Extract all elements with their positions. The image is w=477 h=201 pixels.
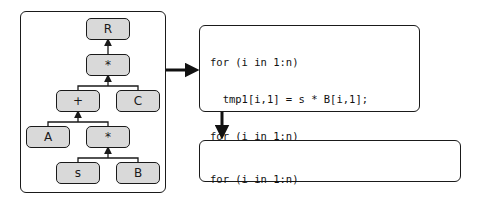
- tree-node-C: C: [116, 90, 160, 112]
- code-line: tmp1[i,1] = s * B[i,1];: [210, 93, 419, 105]
- code-line: for (i in 1:n): [210, 56, 419, 68]
- tree-node-B: B: [116, 162, 160, 184]
- code-unfused: for (i in 1:n) tmp1[i,1] = s * B[i,1]; f…: [199, 25, 420, 112]
- tree-node-mul1: *: [86, 54, 130, 76]
- tree-node-R: R: [86, 18, 130, 40]
- tree-node-s: s: [56, 162, 100, 184]
- code-fused: for (i in 1:n) R[i,1] = (A[i,i] + s * B[…: [199, 140, 461, 182]
- tree-node-A: A: [26, 126, 70, 148]
- tree-node-mul2: *: [86, 126, 130, 148]
- tree-node-plus: +: [56, 90, 100, 112]
- code-line: for (i in 1:n): [210, 173, 460, 185]
